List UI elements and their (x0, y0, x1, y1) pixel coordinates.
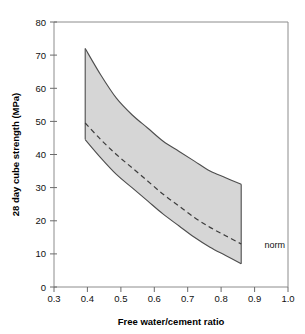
y-tick-label-40: 40 (35, 149, 46, 160)
x-tick-label-0.8: 0.8 (214, 293, 227, 304)
y-tick-label-0: 0 (41, 282, 46, 293)
chart-figure: 80 70 60 50 40 30 20 10 0 0.3 0.4 0.5 0.… (0, 0, 305, 334)
x-tick-label-1.0: 1.0 (281, 293, 294, 304)
y-tick-label-80: 80 (35, 17, 46, 28)
y-tick-label-70: 70 (35, 50, 46, 61)
x-axis-title: Free water/cement ratio (118, 316, 225, 327)
y-tick-label-30: 30 (35, 182, 46, 193)
y-tick-label-10: 10 (35, 248, 46, 259)
y-tick-label-20: 20 (35, 215, 46, 226)
norm-annotation-label: norm (265, 240, 286, 250)
x-tick-label-0.7: 0.7 (181, 293, 194, 304)
y-tick-label-60: 60 (35, 83, 46, 94)
y-axis-title: 28 day cube strength (MPa) (10, 93, 21, 217)
x-tick-label-0.6: 0.6 (148, 293, 161, 304)
y-axis-tick-labels: 80 70 60 50 40 30 20 10 0 (35, 17, 46, 293)
concrete-strength-chart: 80 70 60 50 40 30 20 10 0 0.3 0.4 0.5 0.… (0, 0, 305, 334)
x-tick-label-0.5: 0.5 (114, 293, 127, 304)
norm-annotation: norm (265, 240, 286, 250)
x-tick-label-0.4: 0.4 (81, 293, 94, 304)
x-tick-label-0.9: 0.9 (248, 293, 261, 304)
x-tick-label-0.3: 0.3 (47, 293, 60, 304)
y-tick-label-50: 50 (35, 116, 46, 127)
